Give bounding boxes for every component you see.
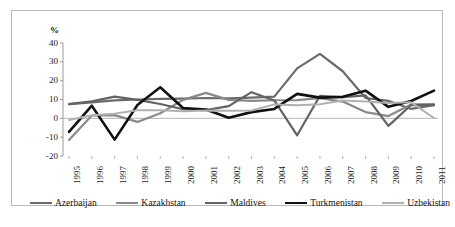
legend-swatch-icon <box>116 202 138 204</box>
chart-legend: AzerbaijanKazakhstanMaldivesTurkmenistan… <box>30 195 450 211</box>
legend-item-turkmenistan[interactable]: Turkmenistan <box>285 198 362 208</box>
legend-item-maldives[interactable]: Maldives <box>205 198 265 208</box>
legend-label: Azerbaijan <box>55 198 97 208</box>
legend-label: Turkmenistan <box>310 198 362 208</box>
legend-item-kazakhstan[interactable]: Kazakhstan <box>116 198 185 208</box>
plot-area <box>12 11 444 207</box>
legend-item-uzbekistan[interactable]: Uzbekistan <box>382 198 450 208</box>
legend-swatch-icon <box>205 202 227 204</box>
series-lines <box>69 54 434 140</box>
legend-swatch-icon <box>382 202 404 204</box>
chart-frame: % 403020100-10-20 1995199619971998199920… <box>11 10 443 206</box>
legend-swatch-icon <box>285 202 307 204</box>
legend-label: Kazakhstan <box>141 198 185 208</box>
legend-label: Uzbekistan <box>407 198 450 208</box>
legend-item-azerbaijan[interactable]: Azerbaijan <box>30 198 97 208</box>
legend-swatch-icon <box>30 202 52 204</box>
legend-label: Maldives <box>230 198 265 208</box>
chart-figure: % 403020100-10-20 1995199619971998199920… <box>0 0 455 227</box>
